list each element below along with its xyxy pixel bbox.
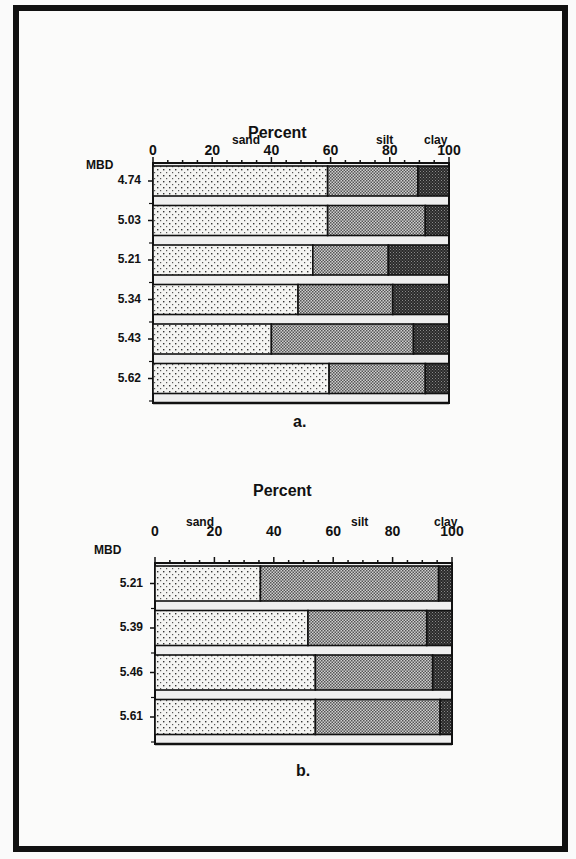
bar-segment-clay: [388, 245, 449, 275]
bar-segment-silt: [315, 655, 432, 690]
bar-segment-clay: [440, 700, 452, 735]
bar-segment-sand: [153, 206, 328, 236]
bar-segment-silt: [328, 206, 426, 236]
bar-segment-silt: [313, 245, 388, 275]
bar-segment-silt: [298, 285, 393, 315]
bar-segment-clay: [413, 324, 449, 354]
bar-segment-silt: [308, 611, 427, 646]
bar-segment-clay: [393, 285, 449, 315]
bar-segment-sand: [153, 364, 329, 394]
bar-segment-sand: [153, 324, 271, 354]
bar-segment-silt: [315, 700, 440, 735]
bar-segment-sand: [155, 611, 308, 646]
bar-segment-sand: [153, 166, 328, 196]
bar-segment-sand: [155, 700, 315, 735]
bar-segment-silt: [260, 566, 438, 601]
bar-segment-sand: [153, 285, 298, 315]
bar-segment-silt: [329, 364, 425, 394]
chart-plots: [0, 0, 576, 859]
bar-segment-clay: [425, 364, 449, 394]
bar-segment-clay: [425, 206, 449, 236]
bar-segment-clay: [433, 655, 452, 690]
bar-segment-sand: [153, 245, 313, 275]
bar-segment-sand: [155, 655, 315, 690]
bar-segment-clay: [418, 166, 449, 196]
figure: Percent sand silt clay MBD 020406080100 …: [0, 0, 576, 859]
bar-segment-silt: [271, 324, 413, 354]
bar-segment-sand: [155, 566, 260, 601]
bar-segment-clay: [427, 611, 452, 646]
bar-segment-clay: [439, 566, 452, 601]
bar-segment-silt: [328, 166, 418, 196]
